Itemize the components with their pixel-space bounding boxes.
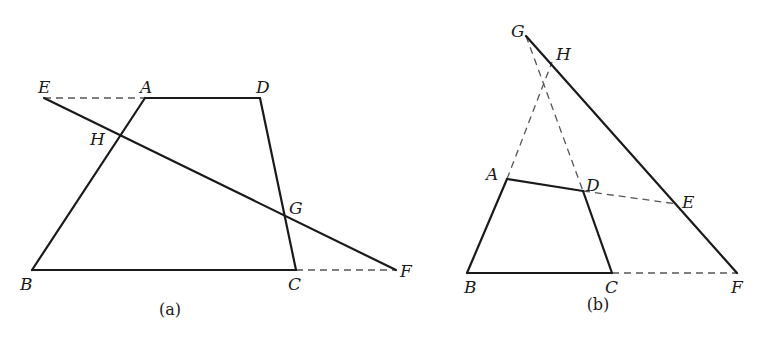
solid-segment-AD bbox=[507, 179, 583, 191]
solid-segment-BA bbox=[32, 98, 145, 270]
geometry-diagram: ABCDEFGH(a) ABCDEFGH(b) bbox=[0, 0, 766, 349]
point-label-d: D bbox=[585, 175, 600, 195]
solid-segment-DC bbox=[260, 98, 296, 270]
point-label-e: E bbox=[37, 77, 51, 97]
figure-caption: (b) bbox=[587, 295, 610, 314]
figure-caption: (a) bbox=[159, 300, 181, 319]
point-label-a: A bbox=[138, 77, 152, 97]
solid-segment-GF bbox=[526, 36, 737, 273]
point-label-b: B bbox=[19, 274, 33, 294]
point-label-e: E bbox=[681, 192, 695, 212]
point-label-h: H bbox=[89, 129, 106, 149]
solid-segment-BA bbox=[467, 179, 507, 273]
point-label-f: F bbox=[399, 261, 413, 281]
point-label-h: H bbox=[555, 44, 572, 64]
solid-segment-DC bbox=[583, 191, 612, 273]
point-label-d: D bbox=[255, 77, 270, 97]
figure-a: ABCDEFGH(a) bbox=[19, 77, 413, 319]
point-label-g: G bbox=[289, 198, 303, 218]
point-label-b: B bbox=[463, 277, 477, 297]
point-label-c: C bbox=[605, 277, 618, 297]
solid-segment-EF bbox=[44, 98, 396, 270]
dashed-segment-AH bbox=[507, 62, 552, 179]
point-label-g: G bbox=[511, 21, 525, 41]
point-label-c: C bbox=[288, 274, 301, 294]
dashed-segment-GD bbox=[526, 36, 583, 191]
figure-b: ABCDEFGH(b) bbox=[463, 21, 744, 314]
point-label-a: A bbox=[484, 164, 498, 184]
point-label-f: F bbox=[730, 277, 744, 297]
